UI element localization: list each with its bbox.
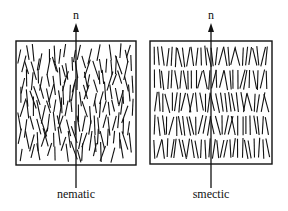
molecule-rod bbox=[112, 100, 115, 112]
molecule-rod bbox=[246, 47, 248, 66]
molecule-rod bbox=[244, 94, 247, 113]
molecule-rod bbox=[203, 70, 207, 89]
molecule-rod bbox=[107, 129, 108, 146]
molecule-rod bbox=[32, 44, 34, 61]
molecule-rod bbox=[20, 149, 22, 161]
smectic-caption: smectic bbox=[193, 187, 230, 201]
molecule-rod bbox=[18, 50, 21, 64]
molecule-rod bbox=[244, 140, 248, 159]
molecule-rod bbox=[201, 48, 202, 66]
molecule-rod bbox=[266, 71, 267, 89]
molecule-rod bbox=[219, 47, 224, 65]
molecule-rod bbox=[196, 48, 198, 66]
molecule-rod bbox=[158, 117, 160, 136]
molecule-rod bbox=[187, 139, 190, 158]
molecule-rod bbox=[106, 59, 107, 73]
molecule-rod bbox=[61, 98, 62, 114]
molecule-rod bbox=[191, 140, 194, 159]
molecule-rod bbox=[262, 116, 263, 134]
molecule-rod bbox=[224, 140, 228, 158]
molecule-rod bbox=[220, 140, 224, 158]
molecule-rod bbox=[109, 45, 111, 61]
molecule-rod bbox=[230, 139, 231, 157]
molecule-rod bbox=[111, 148, 115, 163]
molecule-rod bbox=[65, 101, 68, 117]
molecule-rod bbox=[132, 76, 133, 93]
molecule-rod bbox=[113, 131, 114, 144]
molecule-rod bbox=[94, 116, 95, 136]
molecule-rod bbox=[112, 116, 116, 131]
molecule-rod bbox=[120, 139, 123, 158]
molecule-rod bbox=[129, 133, 131, 153]
molecule-rod bbox=[71, 84, 74, 100]
molecule-rod bbox=[203, 116, 206, 134]
molecule-rod bbox=[190, 93, 194, 112]
molecule-rod bbox=[89, 131, 92, 151]
molecule-rod bbox=[169, 117, 174, 135]
nematic-caption: nematic bbox=[57, 187, 95, 201]
molecule-rod bbox=[243, 138, 244, 158]
molecule-rod bbox=[75, 121, 76, 135]
molecule-rod bbox=[26, 131, 30, 149]
molecule-rod bbox=[178, 116, 182, 135]
molecule-rod bbox=[157, 139, 162, 157]
molecule-rod bbox=[159, 92, 160, 112]
molecule-rod bbox=[71, 99, 72, 112]
molecule-rod bbox=[259, 138, 260, 158]
molecule-rod bbox=[215, 47, 217, 65]
molecule-rod bbox=[231, 47, 236, 65]
molecule-rod bbox=[165, 94, 170, 113]
molecule-rod bbox=[205, 46, 207, 66]
molecule-rod bbox=[77, 150, 81, 163]
molecule-rod bbox=[158, 47, 160, 66]
molecule-rod bbox=[187, 47, 191, 66]
molecule-rod bbox=[171, 47, 172, 66]
molecule-rod bbox=[215, 116, 220, 135]
molecule-rod bbox=[66, 144, 68, 162]
molecule-rod bbox=[80, 92, 82, 107]
molecule-rod bbox=[160, 69, 161, 88]
molecule-rod bbox=[122, 131, 128, 149]
molecule-rod bbox=[224, 47, 227, 66]
molecule-rod bbox=[89, 120, 91, 134]
molecule-rod bbox=[175, 70, 178, 89]
molecule-rod bbox=[231, 116, 235, 135]
molecule-rod bbox=[155, 92, 158, 112]
molecule-rod bbox=[208, 94, 211, 113]
molecule-rod bbox=[208, 116, 211, 135]
molecule-rod bbox=[37, 119, 41, 135]
molecule-rod bbox=[132, 99, 133, 116]
molecule-rod bbox=[181, 93, 186, 111]
molecule-rod bbox=[200, 93, 204, 111]
smectic-panel: n smectic bbox=[150, 8, 272, 201]
molecule-rod bbox=[99, 59, 101, 73]
molecule-rod bbox=[64, 44, 66, 57]
molecule-rod bbox=[47, 74, 49, 86]
molecule-rod bbox=[216, 93, 220, 112]
molecule-rod bbox=[94, 80, 98, 93]
molecule-rod bbox=[257, 70, 258, 90]
molecule-rod bbox=[221, 93, 224, 112]
molecule-rod bbox=[154, 140, 155, 159]
molecule-rod bbox=[131, 55, 132, 71]
smectic-director-label: n bbox=[208, 8, 214, 22]
molecule-rod bbox=[177, 48, 182, 67]
molecule-rod bbox=[161, 71, 163, 90]
molecule-rod bbox=[183, 116, 185, 136]
molecule-rod bbox=[195, 141, 198, 159]
molecule-rod bbox=[103, 115, 107, 128]
molecule-rod bbox=[198, 71, 203, 89]
molecule-rod bbox=[263, 139, 264, 158]
molecule-rod bbox=[191, 47, 194, 66]
molecule-rod bbox=[230, 71, 231, 90]
molecule-rod bbox=[115, 88, 118, 104]
molecule-rod bbox=[266, 47, 268, 66]
molecule-rod bbox=[261, 47, 266, 66]
molecule-rod bbox=[248, 141, 251, 159]
molecule-rod bbox=[59, 49, 61, 64]
molecule-rod bbox=[249, 70, 250, 88]
molecule-rod bbox=[98, 129, 99, 145]
molecule-rod bbox=[231, 93, 235, 111]
smectic-arrowhead-icon bbox=[208, 23, 214, 32]
molecule-rod bbox=[61, 137, 66, 151]
